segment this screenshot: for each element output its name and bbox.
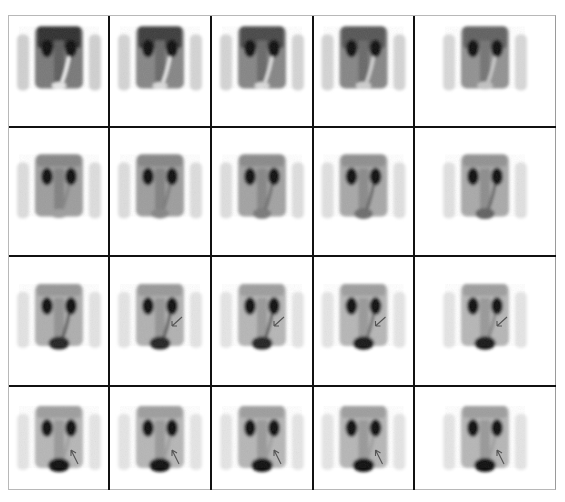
scan-frame-18 <box>211 386 313 490</box>
scan-frame-5 <box>414 16 556 127</box>
scan-frame-8 <box>211 127 313 256</box>
scan-frame-7 <box>109 127 211 256</box>
arrow-icon <box>313 386 414 490</box>
scan-frame-2 <box>109 16 211 127</box>
scan-frame-15 <box>414 256 556 386</box>
arrow-icon <box>414 256 556 386</box>
scan-frame-16 <box>9 386 109 490</box>
arrow-icon <box>414 386 556 490</box>
scan-frame-20 <box>414 386 556 490</box>
scan-frame-19 <box>313 386 414 490</box>
scan-frame-12 <box>109 256 211 386</box>
scan-frame-4 <box>313 16 414 127</box>
arrow-icon <box>211 256 313 386</box>
grid-divider-vertical <box>312 16 314 490</box>
scan-frame-11 <box>9 256 109 386</box>
arrow-icon <box>313 256 414 386</box>
scan-frame-9 <box>313 127 414 256</box>
grid-divider-horizontal <box>9 126 556 128</box>
arrow-icon <box>9 386 109 490</box>
arrow-icon <box>109 256 211 386</box>
arrow-icon <box>211 386 313 490</box>
grid-divider-horizontal <box>9 255 556 257</box>
grid-divider-vertical <box>210 16 212 490</box>
scan-frame-13 <box>211 256 313 386</box>
arrow-icon <box>109 386 211 490</box>
grid-divider-vertical <box>108 16 110 490</box>
scan-frame-6 <box>9 127 109 256</box>
scan-frame-14 <box>313 256 414 386</box>
grid-divider-horizontal <box>9 385 556 387</box>
scan-frame-10 <box>414 127 556 256</box>
scan-frame-3 <box>211 16 313 127</box>
scan-frame-1 <box>9 16 109 127</box>
grid-divider-vertical <box>413 16 415 490</box>
scan-frame-17 <box>109 386 211 490</box>
scintigraphy-frame-grid <box>8 15 556 490</box>
